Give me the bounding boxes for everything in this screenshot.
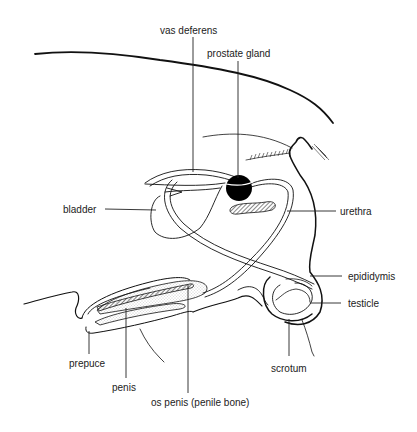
vas-deferens-outer — [145, 170, 293, 297]
label-urethra: urethra — [340, 206, 372, 217]
label-testicle: testicle — [348, 298, 380, 309]
scrotum-hair-line — [302, 320, 314, 356]
label-prostate-gland: prostate gland — [207, 48, 270, 59]
urethra-tip — [167, 188, 182, 196]
perineum-outline — [285, 156, 322, 325]
label-scrotum: scrotum — [271, 363, 307, 374]
prostate-gland — [226, 175, 252, 201]
testicle-inner — [276, 289, 310, 302]
anus-outline — [289, 138, 312, 156]
label-penis: penis — [112, 382, 136, 393]
epididymis-outline — [286, 279, 312, 286]
rectum-outline — [203, 134, 292, 148]
bladder-outline — [151, 186, 222, 238]
sheath-hair-line — [140, 329, 164, 362]
bladder-leader — [105, 209, 156, 210]
label-prepuce: prepuce — [69, 358, 106, 369]
pelvic-bone — [230, 202, 275, 214]
tail-hairs — [312, 144, 329, 160]
rectum-hatching — [246, 153, 290, 160]
back-outline — [35, 52, 333, 123]
label-vas-deferens: vas deferens — [160, 25, 217, 36]
urethra-tube-top — [145, 183, 225, 185]
label-epididymis: epididymis — [348, 271, 395, 282]
abdomen-line — [24, 292, 82, 319]
label-os-penis: os penis (penile bone) — [151, 397, 249, 408]
label-bladder: bladder — [63, 204, 97, 215]
belly-line-lower — [193, 296, 262, 312]
anatomy-diagram: vas deferens prostate gland bladder uret… — [0, 0, 417, 432]
